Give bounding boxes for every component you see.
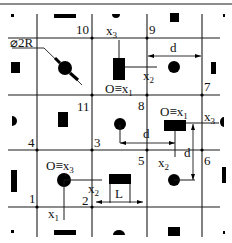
svg-text:x2: x2: [88, 181, 99, 198]
svg-text:O≡x1: O≡x1: [160, 104, 188, 121]
svg-text:x1: x1: [48, 206, 59, 223]
node-label-5: 5: [138, 153, 145, 168]
node-label-3: 3: [94, 135, 101, 150]
block-right: O≡x1 x3 x2 d: [158, 104, 219, 186]
svg-text:x3: x3: [204, 109, 216, 126]
grid-lines: [8, 14, 220, 237]
svg-text:d: d: [143, 126, 150, 141]
svg-text:d: d: [184, 145, 191, 160]
node-label-1: 1: [29, 191, 36, 206]
node-label-6: 6: [204, 153, 211, 168]
block-L: L: [96, 174, 143, 204]
node-label-9: 9: [149, 22, 156, 37]
svg-text:x3: x3: [106, 23, 118, 40]
node-label-4: 4: [28, 135, 35, 150]
node-label-11: 11: [77, 99, 90, 114]
diameter-callout: ⌀2R: [10, 35, 82, 85]
grid-diagram: 1 2 3 4 5 6 7 8 9 10 11: [0, 0, 232, 243]
node-label-7: 7: [204, 79, 211, 94]
svg-text:x2: x2: [143, 68, 154, 85]
svg-text:O≡x3: O≡x3: [46, 158, 74, 175]
svg-text:x2: x2: [158, 155, 169, 172]
svg-text:O≡x1: O≡x1: [105, 81, 133, 98]
pipe-circle: [58, 61, 72, 75]
svg-text:d: d: [170, 40, 177, 55]
node-label-10: 10: [76, 22, 89, 37]
block-lower-left: O≡x3 x1 x2: [46, 158, 102, 223]
svg-text:L: L: [115, 186, 123, 201]
node-label-8: 8: [138, 98, 145, 113]
dimension-d-top: d: [148, 40, 201, 73]
